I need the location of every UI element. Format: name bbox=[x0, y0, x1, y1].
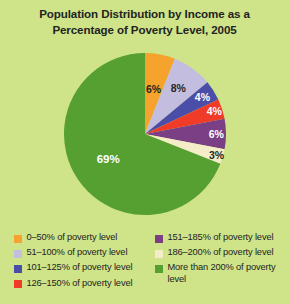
legend-swatch-more-than-200 bbox=[155, 265, 163, 273]
pie-slice-label: 8% bbox=[171, 82, 187, 94]
chart-title-line-2: Percentage of Poverty Level, 2005 bbox=[0, 22, 289, 38]
legend-swatch-126-150 bbox=[14, 280, 22, 288]
legend-item-more-than-200[interactable]: More than 200% of poverty level bbox=[155, 262, 289, 285]
legend-swatch-151-185 bbox=[155, 235, 163, 243]
pie-slice-label: 4% bbox=[195, 91, 211, 103]
legend-label-151-185: 151–185% of poverty level bbox=[168, 232, 274, 244]
legend-label-101-125: 101–125% of poverty level bbox=[27, 262, 133, 274]
legend-item-186-200[interactable]: 186–200% of poverty level bbox=[155, 247, 289, 260]
pie-slice-label: 6% bbox=[209, 128, 225, 140]
pie-chart: 6%8%4%4%6%3%69% bbox=[0, 44, 289, 230]
chart-page: Population Distribution by Income as a P… bbox=[0, 0, 289, 304]
pie-slice-label: 4% bbox=[207, 105, 223, 117]
pie-slice-label: 69% bbox=[97, 153, 120, 165]
legend-label-126-150: 126–150% of poverty level bbox=[27, 278, 133, 290]
legend-item-0-50[interactable]: 0–50% of poverty level bbox=[14, 232, 154, 245]
legend-item-151-185[interactable]: 151–185% of poverty level bbox=[155, 232, 289, 245]
legend-column-right: 151–185% of poverty level 186–200% of po… bbox=[155, 232, 289, 288]
legend-label-0-50: 0–50% of poverty level bbox=[27, 232, 118, 244]
legend-label-more-than-200: More than 200% of poverty level bbox=[168, 262, 290, 285]
pie-slice-label: 6% bbox=[146, 83, 162, 95]
legend-item-51-100[interactable]: 51–100% of poverty level bbox=[14, 247, 154, 260]
legend-label-186-200: 186–200% of poverty level bbox=[168, 247, 274, 259]
legend-item-126-150[interactable]: 126–150% of poverty level bbox=[14, 278, 154, 291]
legend-label-51-100: 51–100% of poverty level bbox=[27, 247, 128, 259]
legend-column-left: 0–50% of poverty level 51–100% of povert… bbox=[14, 232, 154, 293]
legend-item-101-125[interactable]: 101–125% of poverty level bbox=[14, 262, 154, 275]
legend-swatch-101-125 bbox=[14, 265, 22, 273]
legend-swatch-0-50 bbox=[14, 235, 22, 243]
legend-swatch-51-100 bbox=[14, 250, 22, 258]
chart-title-line-1: Population Distribution by Income as a bbox=[0, 6, 289, 22]
pie-chart-svg: 6%8%4%4%6%3%69% bbox=[0, 44, 289, 230]
chart-title: Population Distribution by Income as a P… bbox=[0, 6, 289, 37]
pie-slice-group bbox=[64, 53, 226, 215]
pie-slice-label: 3% bbox=[209, 149, 225, 161]
legend-swatch-186-200 bbox=[155, 250, 163, 258]
chart-legend: 0–50% of poverty level 51–100% of povert… bbox=[0, 232, 289, 304]
